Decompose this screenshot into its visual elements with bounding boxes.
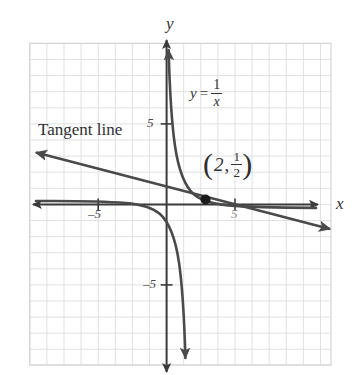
y-axis-label: y [166,14,174,34]
x-axis-label: x [336,194,344,214]
open-paren: ( [203,152,213,177]
tangent-line-label: Tangent line [38,120,122,140]
equation-numerator: 1 [211,78,222,92]
point-y-denominator: 2 [232,166,243,179]
graph-figure [0,0,356,375]
tick-label-x-pos5: 5 [231,206,238,222]
point-x-value: 2 [213,154,225,176]
equation-equals: = [200,85,208,102]
point-comma: , [225,154,232,176]
equation-fraction: 1 x [211,78,222,110]
tick-label-x-neg5: –5 [88,206,101,222]
point-y-fraction: 1 2 [231,150,242,180]
point-coordinate-label: ( 2 , 1 2 ) [203,150,252,180]
equation-denominator: x [212,95,222,109]
tick-label-y-neg5: –5 [143,276,156,292]
figure-background [0,0,356,375]
tick-label-y-pos5: 5 [147,115,154,131]
curve-equation-label: y = 1 x [190,78,222,110]
equation-lhs: y [190,85,197,102]
point-y-numerator: 1 [232,150,243,163]
close-paren: ) [242,152,252,177]
point-of-tangency [201,195,211,205]
